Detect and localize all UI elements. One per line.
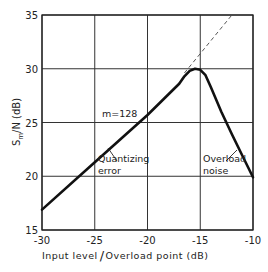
x-axis-ticks: -30-25-20-15-10 (34, 235, 261, 246)
annotation-overload: Overload (203, 153, 246, 164)
grid-lines (42, 15, 253, 230)
y-tick-label: 15 (25, 225, 38, 236)
extrapolated-dashed-line (184, 15, 232, 73)
annotation-noise: noise (203, 165, 228, 176)
x-tick-label: -10 (245, 235, 261, 246)
annotation-m128: m=128 (102, 108, 137, 119)
y-tick-label: 20 (25, 171, 38, 182)
y-tick-label: 30 (25, 64, 38, 75)
annotation-error: error (98, 165, 121, 176)
y-tick-label: 35 (25, 10, 38, 21)
y-axis-label: Sm/N (dB) (11, 98, 25, 146)
x-tick-label: -20 (139, 235, 155, 246)
x-label-left: Input level (42, 250, 98, 261)
x-axis-label: Input level/Overload point (dB) (42, 248, 209, 263)
y-tick-label: 25 (25, 118, 38, 129)
x-label-slash: / (100, 248, 105, 263)
x-label-right: Overload point (dB) (106, 250, 209, 261)
y-label-rest: /N (dB) (11, 98, 22, 133)
snr-vs-input-level-chart: -30-25-20-15-10 1520253035 m=128 Quantiz… (0, 0, 268, 272)
x-tick-label: -30 (34, 235, 50, 246)
x-tick-label: -25 (87, 235, 103, 246)
x-tick-label: -15 (192, 235, 208, 246)
annotation-quantizing: Quantizing (98, 153, 149, 164)
y-axis-ticks: 1520253035 (25, 10, 38, 236)
